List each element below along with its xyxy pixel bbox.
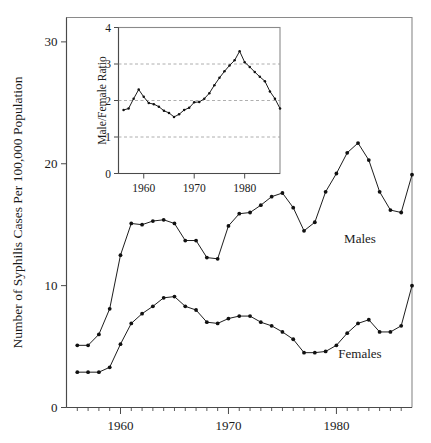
data-point-males [356, 141, 360, 145]
inset-y-tick-label: 4 [105, 22, 111, 34]
data-point-males [216, 257, 220, 261]
data-point-males [173, 222, 177, 226]
data-point-females [291, 337, 295, 341]
inset-data-point [188, 107, 191, 110]
inset-data-point [228, 64, 231, 67]
data-point-females [248, 314, 252, 318]
data-point-males [410, 173, 414, 177]
data-point-males [237, 212, 241, 216]
data-point-males [291, 206, 295, 210]
data-point-males [270, 195, 274, 199]
data-point-females [119, 342, 123, 346]
data-point-males [324, 190, 328, 194]
inset-data-point [213, 84, 216, 87]
females-series-label: Females [338, 346, 381, 361]
inset-data-point [137, 88, 140, 91]
data-point-females [356, 322, 360, 326]
inset-data-point [254, 71, 257, 74]
data-point-males [108, 307, 112, 311]
inset-data-point [142, 96, 145, 99]
males-series-label: Males [344, 231, 376, 246]
data-point-males [129, 222, 133, 226]
data-point-females [259, 320, 263, 324]
inset-data-point [183, 109, 186, 112]
data-point-females [151, 304, 155, 308]
data-point-males [389, 208, 393, 212]
main-y-tick-label: 0 [51, 400, 58, 415]
inset-x-tick-label: 1960 [132, 182, 155, 194]
data-point-females [194, 308, 198, 312]
data-point-females [270, 324, 274, 328]
data-point-females [205, 320, 209, 324]
data-point-females [129, 322, 133, 326]
inset-data-point [208, 92, 211, 95]
inset-data-point [264, 80, 267, 83]
data-point-males [227, 224, 231, 228]
data-point-females [140, 312, 144, 316]
data-point-males [399, 211, 403, 215]
inset-data-point [248, 66, 251, 69]
data-point-males [151, 219, 155, 223]
data-point-females [108, 365, 112, 369]
main-x-tick-label: 1960 [107, 418, 133, 433]
chart-figure: 0102030196019701980Number of Syphilis Ca… [0, 0, 431, 443]
data-point-males [248, 211, 252, 215]
main-y-tick-label: 10 [45, 278, 58, 293]
inset-series-line [124, 51, 280, 117]
data-point-females [183, 304, 187, 308]
main-x-tick-label: 1970 [215, 418, 241, 433]
inset-data-point [198, 101, 201, 104]
data-point-females [378, 330, 382, 334]
data-point-females [399, 324, 403, 328]
data-point-males [367, 158, 371, 162]
data-point-females [302, 351, 306, 355]
inset-data-point [193, 101, 196, 104]
inset-data-point [153, 103, 156, 106]
inset-y-axis-title: Male/Female Ratio [96, 56, 108, 145]
main-y-tick-label: 20 [45, 156, 58, 171]
data-point-females [75, 370, 79, 374]
data-point-females [86, 370, 90, 374]
data-point-females [227, 317, 231, 321]
data-point-males [86, 343, 90, 347]
inset-data-point [132, 97, 135, 100]
main-y-tick-label: 30 [45, 34, 58, 49]
data-point-females [281, 330, 285, 334]
data-point-males [313, 220, 317, 224]
data-point-females [313, 351, 317, 355]
inset-x-tick-label: 1980 [233, 182, 256, 194]
data-point-males [259, 203, 263, 207]
data-point-males [205, 256, 209, 260]
data-point-males [119, 253, 123, 257]
inset-data-point [274, 97, 277, 100]
syphilis-cases-line-chart: 0102030196019701980Number of Syphilis Ca… [0, 0, 431, 443]
inset-data-point [233, 59, 236, 62]
data-point-males [378, 190, 382, 194]
inset-data-point [127, 107, 130, 110]
data-point-males [335, 172, 339, 176]
inset-data-point [203, 97, 206, 100]
data-point-males [302, 229, 306, 233]
inset-data-point [269, 90, 272, 93]
data-point-females [162, 296, 166, 300]
inset-x-tick-label: 1970 [183, 182, 206, 194]
data-point-males [345, 151, 349, 155]
data-point-males [183, 239, 187, 243]
data-point-females [410, 284, 414, 288]
data-point-females [97, 370, 101, 374]
data-point-males [281, 191, 285, 195]
inset-data-point [158, 105, 161, 108]
data-point-females [324, 350, 328, 354]
inset-data-point [173, 116, 176, 119]
data-point-males [97, 332, 101, 336]
data-point-females [216, 322, 220, 326]
data-point-females [345, 331, 349, 335]
data-point-females [367, 318, 371, 322]
inset-data-point [223, 70, 226, 73]
data-point-females [389, 330, 393, 334]
data-point-males [75, 343, 79, 347]
inset-data-point [218, 77, 221, 80]
inset-data-point [243, 61, 246, 64]
data-point-males [162, 218, 166, 222]
main-y-axis-title: Number of Syphilis Cases Per 100,000 Pop… [10, 76, 25, 348]
